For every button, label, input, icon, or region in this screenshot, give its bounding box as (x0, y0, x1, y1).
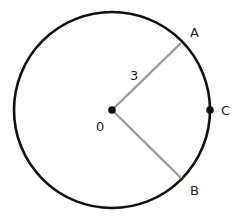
radius-ob (112, 110, 181, 178)
point-c (206, 106, 214, 114)
radius-label: 3 (130, 68, 138, 83)
point-c-label: C (221, 103, 230, 118)
point-a-label: A (190, 25, 199, 40)
center-label: 0 (96, 119, 104, 134)
point-b-label: B (190, 183, 199, 198)
center-point (108, 106, 116, 114)
radius-oa (112, 43, 181, 110)
circle-diagram: 0 3 A B C (0, 0, 241, 221)
